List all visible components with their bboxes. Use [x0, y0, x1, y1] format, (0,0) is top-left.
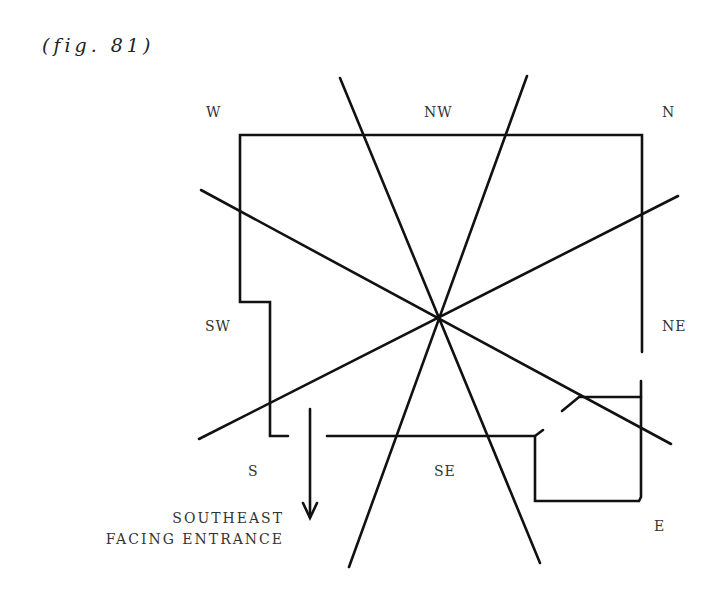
- entrance-label-line1: SOUTHEAST: [106, 508, 284, 529]
- wall-top-left: [240, 135, 642, 436]
- label-e: E: [654, 518, 665, 534]
- entrance-label: SOUTHEAST FACING ENTRANCE: [106, 508, 284, 550]
- wall-bottom: [327, 430, 543, 436]
- compass-line-wnw-ese: [201, 190, 671, 444]
- wall-inner: [562, 397, 641, 411]
- entrance-label-line2: FACING ENTRANCE: [106, 529, 284, 550]
- label-se: SE: [434, 463, 456, 479]
- floor-plan-diagram: [0, 0, 719, 593]
- label-n: N: [662, 104, 675, 120]
- label-nw: NW: [424, 104, 453, 120]
- label-sw: SW: [205, 318, 231, 334]
- compass-line-nne-ssw: [349, 76, 527, 567]
- label-ne: NE: [662, 318, 686, 334]
- label-s: S: [248, 463, 259, 479]
- label-w: W: [206, 104, 221, 120]
